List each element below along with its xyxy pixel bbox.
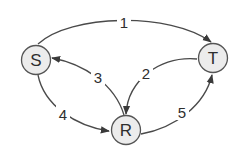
edge-s-to-t: 1	[38, 12, 211, 44]
node-t-label: T	[208, 49, 218, 68]
node-s-label: S	[30, 51, 41, 70]
node-r: R	[112, 116, 141, 145]
edge-1-label: 1	[120, 14, 128, 31]
edge-5-label: 5	[178, 104, 186, 121]
graph-diagram: 1 2 3 4 5 S T R	[0, 0, 245, 157]
edge-r-to-t: 5	[141, 75, 212, 134]
node-r-label: R	[120, 121, 132, 140]
node-s: S	[22, 46, 51, 75]
node-t: T	[199, 44, 228, 73]
edge-3-label: 3	[94, 69, 102, 86]
edge-4-label: 4	[59, 106, 67, 123]
edge-2-label: 2	[142, 65, 150, 82]
